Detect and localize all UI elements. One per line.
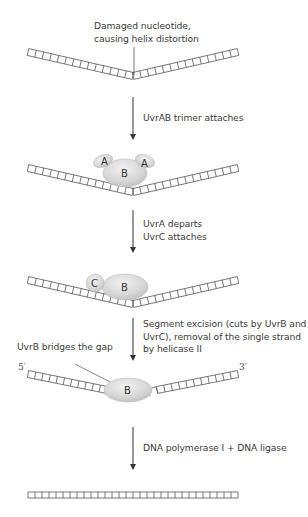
- callout-pointer-line: [75, 364, 112, 383]
- svg-text:B: B: [121, 282, 128, 293]
- damage-label-line-2: causing helix distortion: [94, 33, 199, 46]
- svg-text:A: A: [141, 158, 148, 169]
- diagram-canvas: A B A C B B 5′ 3′: [0, 0, 308, 517]
- step-uvrc-label-line-2: UvrC attaches: [143, 231, 207, 244]
- svg-text:C: C: [91, 278, 98, 289]
- step-excision-label-line-3: by helicase II: [143, 343, 306, 356]
- step-uvrc-label-line-1: UvrA departs: [143, 218, 207, 231]
- step-excision-label: Segment excision (cuts by UvrB and UvrC)…: [143, 318, 306, 356]
- uvrb-gap-bridge: B 5′ 3′: [18, 362, 247, 402]
- damage-label: Damaged nucleotide, causing helix distor…: [94, 20, 199, 45]
- uvrb-callout-label: UvrB bridges the gap: [17, 341, 113, 354]
- damage-label-line-1: Damaged nucleotide,: [94, 20, 199, 33]
- svg-text:A: A: [101, 156, 108, 167]
- svg-text:3′: 3′: [239, 362, 247, 372]
- arrow-step-1: [130, 97, 136, 140]
- step-uvrc-label: UvrA departs UvrC attaches: [143, 218, 207, 243]
- dna-repaired: [28, 492, 238, 498]
- step-repair-label: DNA polymerase I + DNA ligase: [143, 442, 286, 455]
- svg-text:B: B: [124, 385, 131, 396]
- arrow-step-3: [130, 318, 136, 361]
- svg-text:5′: 5′: [18, 362, 26, 372]
- uvrab-trimer: A B A: [92, 152, 157, 187]
- dna-damaged-helix: [27, 49, 239, 80]
- arrow-step-2: [130, 210, 136, 253]
- arrow-step-4: [130, 427, 136, 470]
- svg-text:B: B: [121, 168, 128, 179]
- step-uvrab-label: UvrAB trimer attaches: [143, 112, 243, 125]
- step-excision-label-line-1: Segment excision (cuts by UvrB and: [143, 318, 306, 331]
- step-excision-label-line-2: UvrC), removal of the single strand: [143, 331, 306, 344]
